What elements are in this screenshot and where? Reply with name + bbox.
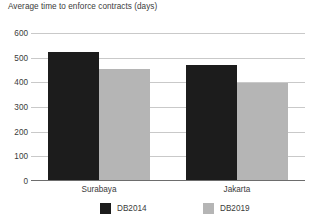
- y-tick-label: 100: [2, 152, 28, 161]
- y-tick-label: 400: [2, 78, 28, 87]
- legend-swatch-icon: [203, 203, 214, 214]
- bar-surabaya-db2019: [99, 69, 150, 180]
- y-axis-labels: 600 500 400 300 200 100 0: [0, 33, 28, 181]
- y-tick-label: 200: [2, 127, 28, 136]
- chart-title: Average time to enforce contracts (days): [8, 2, 248, 13]
- legend-item-db2019: DB2019: [203, 203, 250, 214]
- legend-label: DB2019: [220, 204, 250, 213]
- plot-area: [31, 33, 305, 181]
- x-axis-baseline: [31, 180, 305, 181]
- y-tick-label: 300: [2, 103, 28, 112]
- bar-chart: Average time to enforce contracts (days)…: [0, 0, 310, 224]
- legend-label: DB2014: [117, 204, 147, 213]
- chart-legend: DB2014 DB2019: [0, 203, 310, 217]
- category-label-jakarta: Jakarta: [224, 185, 251, 194]
- y-tick-label: 600: [2, 29, 28, 38]
- legend-swatch-icon: [100, 203, 111, 214]
- y-tick-label: 0: [2, 177, 28, 186]
- bar-jakarta-db2014: [186, 65, 237, 180]
- gridline: [31, 33, 305, 34]
- bar-surabaya-db2014: [48, 52, 99, 180]
- category-label-surabaya: Surabaya: [81, 185, 116, 194]
- y-tick-label: 500: [2, 53, 28, 62]
- bar-jakarta-db2019: [237, 83, 288, 180]
- legend-item-db2014: DB2014: [100, 203, 147, 214]
